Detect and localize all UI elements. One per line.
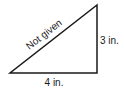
base-label: 4 in.	[45, 77, 64, 88]
vertical-side-label: 3 in.	[100, 35, 119, 46]
right-triangle	[10, 5, 97, 73]
triangle-diagram: Not given 3 in. 4 in.	[0, 0, 124, 91]
